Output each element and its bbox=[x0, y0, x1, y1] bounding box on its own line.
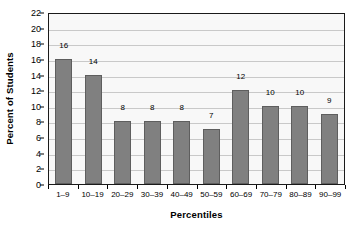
bar-slot: 8 bbox=[108, 14, 138, 184]
plot-area: 161488871210109 bbox=[48, 13, 345, 185]
bar-value-label: 10 bbox=[266, 89, 275, 97]
bar-slot: 7 bbox=[197, 14, 227, 184]
bar[interactable] bbox=[55, 59, 72, 184]
bar-slot: 8 bbox=[138, 14, 168, 184]
y-axis-tick-mark bbox=[40, 106, 44, 107]
bar[interactable] bbox=[144, 121, 161, 184]
x-axis-tick-label: 80–89 bbox=[286, 190, 316, 204]
bar[interactable] bbox=[321, 114, 338, 184]
bar-value-label: 8 bbox=[150, 104, 154, 112]
bar-value-label: 7 bbox=[209, 112, 213, 120]
x-axis-tick-label: 60–69 bbox=[226, 190, 256, 204]
x-axis-tick-label: 20–29 bbox=[107, 190, 137, 204]
y-axis-tick-mark bbox=[40, 138, 44, 139]
bar-chart: Percent of Students 0246810121416182022 … bbox=[0, 0, 360, 240]
bar-slot: 10 bbox=[285, 14, 315, 184]
y-axis-title-text: Percent of Students bbox=[4, 52, 15, 145]
y-axis-tick-mark bbox=[40, 185, 44, 186]
x-axis-tick-label: 1–9 bbox=[48, 190, 78, 204]
x-axis-tick-label: 50–59 bbox=[197, 190, 227, 204]
y-axis-tick-labels: 0246810121416182022 bbox=[18, 13, 44, 185]
y-axis-title: Percent of Students bbox=[0, 0, 18, 196]
bar-value-label: 14 bbox=[89, 58, 98, 66]
x-axis-tick-label: 40–49 bbox=[167, 190, 197, 204]
x-axis-tick-labels: 1–910–1920–2930–3940–4950–5960–6970–7980… bbox=[48, 190, 345, 204]
y-axis-tick-mark bbox=[40, 28, 44, 29]
x-axis-tick-mark bbox=[226, 185, 227, 189]
y-axis-tick-mark bbox=[40, 59, 44, 60]
bar-slot: 8 bbox=[167, 14, 197, 184]
y-axis-tick-mark bbox=[40, 75, 44, 76]
y-axis-tick-mark bbox=[40, 44, 44, 45]
bar[interactable] bbox=[203, 129, 220, 184]
x-axis-tick-mark bbox=[48, 185, 49, 189]
x-axis-tick-mark bbox=[197, 185, 198, 189]
x-axis-tick-mark bbox=[315, 185, 316, 189]
bar-value-label: 16 bbox=[59, 42, 68, 50]
y-axis-tick-mark bbox=[40, 122, 44, 123]
bar[interactable] bbox=[85, 75, 102, 184]
bar-slot: 9 bbox=[315, 14, 345, 184]
bar-value-label: 10 bbox=[295, 89, 304, 97]
y-axis-tick-mark bbox=[40, 91, 44, 92]
x-axis-title: Percentiles bbox=[48, 209, 345, 220]
bar-value-label: 8 bbox=[180, 104, 184, 112]
bar[interactable] bbox=[114, 121, 131, 184]
y-axis-tick-mark bbox=[40, 13, 44, 14]
x-axis-tick-mark bbox=[107, 185, 108, 189]
bar-value-label: 12 bbox=[236, 73, 245, 81]
bar-slot: 12 bbox=[226, 14, 256, 184]
bar[interactable] bbox=[262, 106, 279, 184]
bar-value-label: 8 bbox=[121, 104, 125, 112]
x-axis-tick-label: 10–19 bbox=[78, 190, 108, 204]
x-axis-tick-label: 30–39 bbox=[137, 190, 167, 204]
bars-container: 161488871210109 bbox=[49, 14, 344, 184]
bar-slot: 10 bbox=[256, 14, 286, 184]
y-axis-tick-mark bbox=[40, 169, 44, 170]
bar-slot: 16 bbox=[49, 14, 79, 184]
x-axis-tick-mark bbox=[137, 185, 138, 189]
x-axis-tick-mark bbox=[345, 185, 346, 189]
x-axis-tick-mark bbox=[286, 185, 287, 189]
x-axis-tick-label: 90–99 bbox=[315, 190, 345, 204]
x-axis-tick-mark bbox=[78, 185, 79, 189]
bar[interactable] bbox=[173, 121, 190, 184]
bar-slot: 14 bbox=[79, 14, 109, 184]
bar-value-label: 9 bbox=[327, 97, 331, 105]
bar[interactable] bbox=[291, 106, 308, 184]
x-axis-tick-label: 70–79 bbox=[256, 190, 286, 204]
y-axis-tick-mark bbox=[40, 153, 44, 154]
bar[interactable] bbox=[232, 90, 249, 184]
x-axis-tick-mark bbox=[167, 185, 168, 189]
x-axis-tick-mark bbox=[256, 185, 257, 189]
